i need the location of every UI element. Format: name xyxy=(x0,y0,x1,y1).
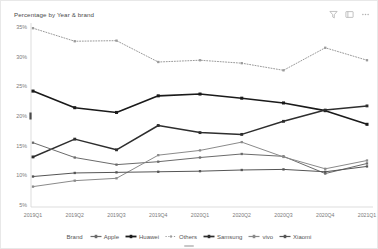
legend-item-label: Samsung xyxy=(217,234,242,240)
data-series-group xyxy=(31,27,368,188)
chart-canvas: 35%30%25%20%15%10%5% 2019Q12019Q22019Q32… xyxy=(1,1,378,249)
y-axis-tick-label: 25% xyxy=(16,83,27,89)
data-series[interactable] xyxy=(32,141,368,188)
plot-area: 35%30%25%20%15%10%5% 2019Q12019Q22019Q32… xyxy=(1,1,378,249)
legend-swatch-icon xyxy=(90,233,102,240)
legend-item-others[interactable]: Others xyxy=(165,233,197,240)
legend-item-samsung[interactable]: Samsung xyxy=(203,233,242,240)
legend-item-xiaomi[interactable]: Xiaomi xyxy=(279,233,311,240)
y-axis-tick-label: 5% xyxy=(19,202,27,208)
legend-item-label: vivo xyxy=(262,234,273,240)
legend-title: Brand xyxy=(67,234,83,240)
legend-item-label: Others xyxy=(179,234,197,240)
chart-legend: Brand AppleHuaweiOthersSamsungvivoXiaomi xyxy=(1,231,377,242)
data-series[interactable] xyxy=(31,90,368,126)
legend-item-huawei[interactable]: Huawei xyxy=(125,233,159,240)
x-axis-tick-label: 2021Q1 xyxy=(358,212,377,218)
x-axis-tick-label: 2019Q2 xyxy=(66,212,85,218)
legend-item-apple[interactable]: Apple xyxy=(90,233,119,240)
x-axis-tick-label: 2019Q3 xyxy=(107,212,126,218)
legend-swatch-icon xyxy=(125,233,137,240)
legend-item-vivo[interactable]: vivo xyxy=(248,233,273,240)
legend-swatch-icon xyxy=(165,233,177,240)
y-axis: 35%30%25%20%15%10%5% xyxy=(16,23,31,208)
x-axis-tick-label: 2020Q4 xyxy=(316,212,335,218)
x-axis: 2019Q12019Q22019Q32019Q42020Q12020Q22020… xyxy=(24,207,377,218)
legend-swatch-icon xyxy=(248,233,260,240)
x-axis-tick-label: 2020Q3 xyxy=(274,212,293,218)
data-series[interactable] xyxy=(32,142,368,175)
legend-swatch-icon xyxy=(203,233,215,240)
x-axis-tick-label: 2020Q2 xyxy=(233,212,252,218)
scroll-indicator[interactable] xyxy=(184,245,194,247)
y-axis-tick-label: 20% xyxy=(16,113,27,119)
y-axis-tick-label: 35% xyxy=(16,24,27,30)
legend-item-label: Apple xyxy=(104,234,119,240)
x-axis-tick-label: 2019Q1 xyxy=(24,212,43,218)
legend-item-label: Huawei xyxy=(139,234,159,240)
x-axis-tick-label: 2020Q1 xyxy=(191,212,210,218)
y-axis-tick-label: 30% xyxy=(16,54,27,60)
legend-item-label: Xiaomi xyxy=(293,234,311,240)
y-axis-tick-label: 10% xyxy=(16,172,27,178)
x-axis-tick-label: 2019Q4 xyxy=(149,212,168,218)
data-series[interactable] xyxy=(32,27,368,71)
line-chart-visual: Percentage by Year & brand 35%30%25%20%1… xyxy=(0,0,378,249)
legend-swatch-icon xyxy=(279,233,291,240)
y-axis-tick-label: 15% xyxy=(16,143,27,149)
